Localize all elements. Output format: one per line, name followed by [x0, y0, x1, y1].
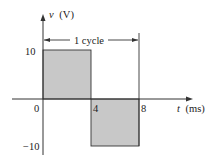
square-wave-diagram: 1 cycle v (V) t (ms) 0 4 8 10 −10: [0, 0, 217, 164]
x-axis-label: t (ms): [177, 103, 205, 115]
arrowhead-right-icon: [132, 38, 138, 42]
x-axis-unit: (ms): [186, 103, 206, 115]
arrowhead-left-icon: [44, 38, 50, 42]
x-axis-arrow-icon: [186, 97, 193, 102]
y-tick-10: 10: [25, 46, 36, 57]
y-axis-arrow-icon: [41, 14, 46, 21]
cycle-label: 1 cycle: [74, 35, 104, 46]
x-tick-4: 4: [93, 103, 99, 114]
x-axis-symbol: t: [177, 103, 181, 114]
y-axis-unit: (V): [59, 9, 74, 21]
x-tick-8: 8: [141, 103, 146, 114]
y-axis-label: v (V): [49, 9, 74, 21]
positive-pulse: [43, 50, 91, 99]
y-tick-neg10: −10: [23, 141, 39, 152]
y-axis-symbol: v: [49, 9, 54, 20]
x-tick-0: 0: [34, 103, 39, 114]
